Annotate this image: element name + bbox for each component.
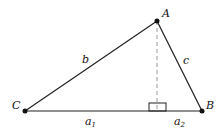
vertex-C-point <box>23 109 28 114</box>
triangle-diagram: A B C b c a1 a2 <box>0 0 222 132</box>
side-a1-label: a1 <box>85 115 96 129</box>
vertex-B-label: B <box>205 99 214 112</box>
side-c-label: c <box>183 54 189 67</box>
side-a2-label: a2 <box>174 115 186 129</box>
side-b <box>25 21 157 111</box>
side-b-label: b <box>82 53 89 66</box>
vertex-C-label: C <box>12 99 21 112</box>
vertex-A-point <box>155 19 160 24</box>
vertex-B-point <box>200 109 205 114</box>
side-c <box>157 21 202 111</box>
vertex-A-label: A <box>161 7 170 20</box>
